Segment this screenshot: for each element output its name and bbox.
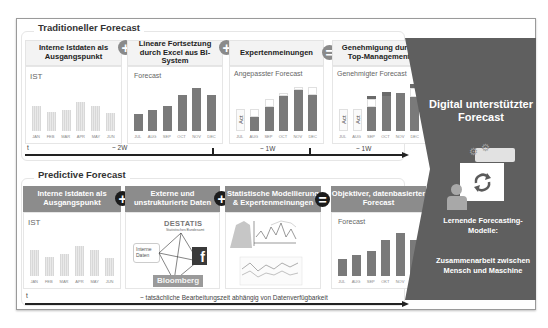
bar	[396, 233, 405, 276]
month: NOV	[192, 134, 201, 139]
month: JUN	[107, 134, 115, 139]
month: AUG	[352, 279, 361, 284]
bar	[76, 102, 85, 131]
bar	[207, 95, 216, 131]
timeline-segment: ~ 1W	[356, 145, 371, 152]
person-head-icon	[451, 184, 462, 195]
month: APR	[75, 279, 83, 284]
equals-icon: =	[315, 192, 330, 207]
timeline-start: t	[27, 144, 29, 151]
predictive-title: Predictive Forecast	[34, 169, 130, 180]
screen-icon	[460, 163, 504, 201]
bar	[265, 107, 274, 131]
bar	[338, 259, 347, 276]
trad-step1-card: IST JAN FEB MAR APR MAY JUN	[25, 66, 122, 144]
month: JUL	[339, 134, 346, 139]
digital-forecast-panel: Digital unterstützter Forecast ⚙ ⚙ Lerne…	[405, 38, 536, 300]
bar	[90, 250, 99, 276]
pred-step2-header: Externe und unstrukturierte Daten	[125, 186, 220, 212]
timeline-arrow	[25, 154, 403, 156]
month: JAN	[30, 279, 38, 284]
bar	[367, 107, 376, 131]
month-labels: JUL AUG SEP OCT NOV DEC	[233, 134, 320, 139]
bar	[178, 95, 187, 131]
bar	[294, 90, 303, 131]
ist-chart	[27, 231, 117, 276]
month: FEB	[45, 279, 53, 284]
bar	[62, 110, 71, 131]
month: APR	[77, 134, 85, 139]
trad-step1-header: Interne Istdaten als Ausgangspunkt	[25, 40, 122, 66]
month-labels: JUL AUG SEP OCT NOV DEC	[131, 134, 219, 139]
trad-step3-card: Angepasster Forecast Act JUL AUG SEP OCT…	[229, 66, 324, 144]
bar	[47, 112, 56, 131]
bar	[192, 88, 201, 131]
bar	[250, 117, 259, 131]
month: NOV	[396, 279, 405, 284]
trad-step2-header: Lineare Fortsetzung durch Excel aus BI-S…	[127, 40, 223, 66]
bar	[148, 110, 157, 131]
act-label: Act	[236, 109, 245, 131]
bloomberg-logo: Bloomberg	[153, 275, 203, 287]
right-panel-text: Zusammenarbeit zwischen Mensch und Masch…	[433, 256, 533, 275]
pred-step2-card: DESTATIS Statistisches Bundesamt Interne…	[125, 212, 220, 289]
bar	[134, 114, 143, 131]
month: JUL	[236, 134, 243, 139]
bar	[32, 106, 41, 131]
gear-icon: ⚙	[469, 146, 478, 157]
bar	[105, 258, 114, 276]
timeline-start: t	[26, 292, 28, 299]
pred-step1-card: IST JAN FEB MAR APR MAY JUN	[23, 212, 121, 289]
bar	[60, 254, 69, 276]
bar	[45, 257, 54, 276]
person-body-icon	[447, 196, 467, 210]
timeline-segment: ~ 2W	[112, 144, 127, 151]
forecast-chart	[131, 83, 219, 131]
adjusted-forecast-chart: Act	[233, 83, 320, 131]
month: OCT	[381, 134, 389, 139]
month: JUL	[134, 134, 141, 139]
card-label: Angepasster Forecast	[234, 70, 302, 79]
card-label: Forecast	[134, 72, 161, 81]
traditional-title: Traditioneller Forecast	[34, 22, 144, 33]
month: JAN	[32, 134, 40, 139]
facebook-icon: f	[192, 247, 207, 265]
month: SEP	[367, 134, 375, 139]
right-panel-subtitle: Lernende Forecasting-Modelle:	[433, 216, 533, 235]
month: OKT	[381, 279, 389, 284]
timeline-arrow	[25, 303, 403, 305]
month: SEP	[264, 134, 272, 139]
month: MAY	[90, 279, 98, 284]
bar	[308, 95, 317, 131]
card-label: Genehmigter Forecast	[337, 70, 407, 79]
month-labels: JAN FEB MAR APR MAY JUN	[29, 134, 118, 139]
trad-step2-card: Forecast JUL AUG SEP OCT NOV DEC	[127, 66, 223, 144]
right-panel-title: Digital unterstützter Forecast	[427, 98, 535, 124]
arrowhead-icon	[402, 301, 409, 307]
gear-icon: ⚙	[481, 142, 490, 153]
month: AUG	[250, 134, 259, 139]
month: FEB	[47, 134, 55, 139]
month: AUG	[148, 134, 157, 139]
month: JUN	[106, 279, 114, 284]
timeline-text: ~ tatsächliche Bearbeitungszeit abhängig…	[140, 294, 328, 301]
month-labels: JAN FEB MAR APR MAY JUN	[27, 279, 117, 284]
pred-step1-header: Interne Istdaten als Ausgangspunkt	[23, 186, 121, 212]
bar	[279, 96, 288, 131]
month: OCT	[177, 134, 185, 139]
bar	[396, 93, 405, 131]
card-label: IST	[30, 72, 42, 82]
ist-chart	[29, 86, 118, 131]
statistical-model-illustration	[226, 213, 322, 290]
refresh-cycle-icon	[460, 163, 504, 201]
bar	[367, 251, 376, 276]
month: DEC	[308, 134, 316, 139]
bar	[381, 240, 390, 276]
month: JUL	[338, 279, 345, 284]
month: AUG	[352, 134, 361, 139]
bar	[91, 106, 100, 131]
month: DEC	[207, 134, 215, 139]
month: MAR	[61, 134, 70, 139]
act-label: Act	[353, 109, 362, 131]
act-label: Act	[339, 109, 348, 131]
